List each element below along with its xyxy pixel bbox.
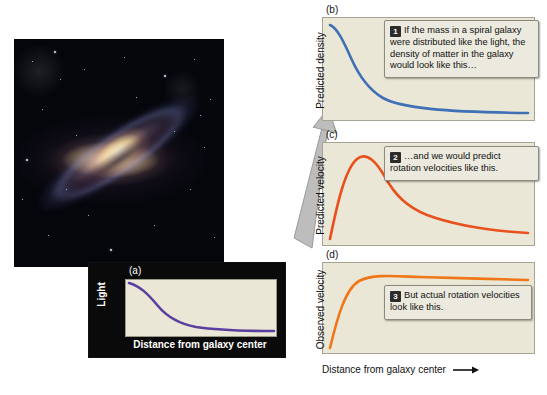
callout-2: 2…and we would predict rotation velociti… — [384, 146, 539, 181]
callout-2-text: …and we would predict rotation velocitie… — [390, 151, 501, 173]
panel-a-y-axis-label: Light — [96, 269, 107, 321]
callout-3-number: 3 — [390, 291, 401, 302]
panel-a-letter: (a) — [129, 265, 141, 276]
callout-2-number: 2 — [390, 152, 401, 163]
panel-b-y-axis-label: Predicted density — [315, 1, 326, 141]
callout-3-text: But actual rotation velocities look like… — [390, 290, 520, 312]
panel-a-plot — [125, 279, 277, 337]
spiral-galaxy-photo — [14, 39, 224, 267]
callout-1-text: If the mass in a spiral galaxy were dist… — [390, 25, 525, 70]
shared-x-axis-label-text: Distance from galaxy center — [322, 364, 446, 375]
figure-canvas: (a) Light Distance from galaxy center (b… — [0, 0, 547, 395]
panel-c-letter: (c) — [326, 129, 338, 140]
callout-1: 1If the mass in a spiral galaxy were dis… — [384, 20, 539, 78]
panel-a: (a) Light Distance from galaxy center — [88, 262, 286, 358]
panel-a-x-axis-label: Distance from galaxy center — [119, 339, 281, 350]
panel-a-curve-svg — [126, 280, 276, 336]
panel-a-curve — [129, 283, 274, 331]
callout-3: 3But actual rotation velocities look lik… — [384, 285, 532, 320]
shared-x-axis-label: Distance from galaxy center — [322, 364, 479, 375]
x-axis-arrow-icon — [453, 366, 479, 374]
panel-d-letter: (d) — [326, 249, 338, 260]
callout-1-number: 1 — [390, 26, 401, 37]
panel-b-letter: (b) — [326, 4, 338, 15]
panel-d-y-axis-label: Observed velocity — [315, 240, 326, 380]
